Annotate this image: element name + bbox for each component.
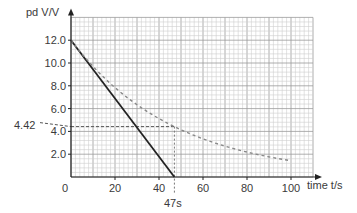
x-axis-label: time t/s — [307, 179, 343, 191]
y-tick-label: 2.0 — [51, 148, 66, 160]
discharge-chart: 204060801002.04.06.08.010.012.0 pd V/V t… — [0, 0, 357, 213]
x-tick-label: 40 — [153, 182, 165, 194]
y-tick-label: 8.0 — [51, 80, 66, 92]
x-tick-label: 80 — [241, 182, 253, 194]
x-tick-label: 60 — [197, 182, 209, 194]
y-tick-label: 6.0 — [51, 103, 66, 115]
marker-x-label: 47s — [164, 197, 182, 209]
y-tick-label: 10.0 — [45, 57, 66, 69]
y-tick-label: 4.0 — [51, 125, 66, 137]
y-axis-label: pd V/V — [26, 6, 60, 18]
marker-y-label: 4.42 — [14, 119, 35, 131]
origin-label: 0 — [62, 182, 68, 194]
x-tick-label: 100 — [282, 182, 300, 194]
grid — [71, 17, 313, 177]
y-tick-label: 12.0 — [45, 34, 66, 46]
x-tick-label: 20 — [109, 182, 121, 194]
